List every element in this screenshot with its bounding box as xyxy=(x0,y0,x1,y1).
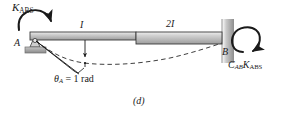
segment-left-inertia-label: I xyxy=(80,20,83,30)
figure-caption: (d) xyxy=(133,96,145,106)
beam-segment-right xyxy=(136,32,222,44)
vertical-deflection-arrow-icon xyxy=(84,40,86,67)
beam-stiffness-figure: KABS A I 2I B CABKABS θA = 1 rad (d) xyxy=(0,0,284,116)
beam-segment-left xyxy=(30,32,136,40)
segment-right-inertia-label: 2I xyxy=(166,19,174,29)
rotation-angle-wedge xyxy=(36,41,79,74)
dashed-deflected-shape-icon xyxy=(36,41,222,64)
counterclockwise-moment-arrow-icon xyxy=(232,27,260,52)
joint-b-label: B xyxy=(222,47,228,57)
joint-a-label: A xyxy=(14,38,20,48)
rotation-angle-label: θA = 1 rad xyxy=(54,74,94,85)
carryover-moment-label: CABKABS xyxy=(228,60,262,71)
applied-moment-label: KABS xyxy=(12,2,33,15)
